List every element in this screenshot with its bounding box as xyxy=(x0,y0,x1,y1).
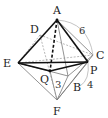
label-Q: Q xyxy=(40,73,49,86)
label-E: E xyxy=(3,57,11,70)
edge-EP xyxy=(18,62,88,63)
label-F: F xyxy=(53,105,61,118)
edge-EQ xyxy=(18,63,50,71)
point-A xyxy=(56,19,59,22)
label-D: D xyxy=(30,23,39,36)
label-P: P xyxy=(90,64,98,77)
label-C: C xyxy=(96,49,104,62)
point-Q xyxy=(49,70,52,73)
edge-DF-hidden xyxy=(40,35,57,100)
edge-QP xyxy=(50,62,88,71)
hidden-edges xyxy=(18,35,93,100)
measure-PF: 4 xyxy=(87,79,93,90)
octahedron-diagram: A D C E P Q B F 6 3 4 xyxy=(0,0,108,118)
bold-edges xyxy=(18,20,88,71)
label-B: B xyxy=(73,81,81,94)
measure-QF: 3 xyxy=(55,79,61,90)
measure-AC: 6 xyxy=(79,25,85,36)
edge-DC-hidden xyxy=(40,35,93,55)
label-A: A xyxy=(52,4,62,17)
